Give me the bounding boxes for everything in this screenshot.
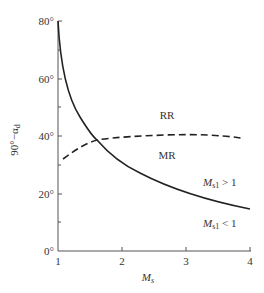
y-tick-0: 0° [44,245,54,257]
y-tick-20: 20° [39,188,54,200]
y-tick-60: 60° [39,73,54,85]
y-axis-label: 90°−αd [8,124,22,155]
y-tick-80: 80° [39,15,54,27]
x-tick-3: 3 [183,255,189,267]
chart-container: 80° 60° 40° 20° 0° 1 2 3 4 Ms 90°−αd RR … [0,0,264,293]
dashed-transition-curve [63,135,241,159]
y-tick-40: 40° [39,130,54,142]
x-tick-2: 2 [119,255,125,267]
rr-label: RR [160,109,175,121]
x-ticks [122,247,250,251]
ms1-gt-1-label: Ms1 > 1 [202,176,237,190]
x-tick-1: 1 [55,255,61,267]
x-tick-4: 4 [247,255,253,267]
mr-label: MR [158,149,176,161]
x-axis-label: Ms [141,271,154,285]
ms1-lt-1-label: Ms1 < 1 [202,217,237,231]
chart-svg: 80° 60° 40° 20° 0° 1 2 3 4 Ms 90°−αd RR … [0,0,264,293]
